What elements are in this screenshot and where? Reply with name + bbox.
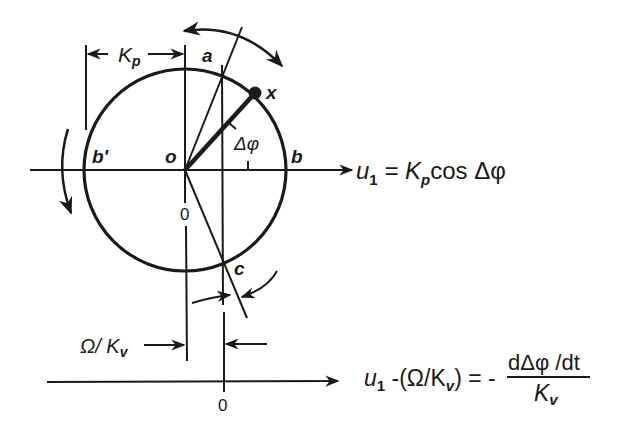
omega-kv-label: Ω/ Kv	[80, 335, 129, 360]
offset-line-upper	[222, 65, 223, 305]
label-zero-upper: 0	[180, 205, 189, 224]
rate-axis	[47, 381, 338, 382]
label-delta-phi: Δφ	[233, 133, 259, 154]
equation-u1: u1 = Kpcos Δφ	[356, 157, 506, 188]
label-x: x	[265, 82, 278, 103]
equation-numerator: dΔφ /dt	[508, 350, 580, 375]
label-b: b	[291, 146, 303, 167]
delta-phi-tick-1	[229, 123, 236, 129]
equation-denominator: Kv	[534, 380, 559, 408]
c-arrow-right	[242, 271, 277, 297]
label-zero-lower: 0	[218, 396, 227, 415]
label-c: c	[234, 258, 245, 279]
vertical-axis-lower	[186, 226, 187, 361]
label-a: a	[202, 45, 213, 66]
c-arrow-left	[192, 295, 230, 303]
line-oc	[185, 170, 247, 318]
label-o: o	[165, 146, 177, 167]
kp-label: Kp	[118, 43, 141, 69]
phase-circle-diagram: Kp Ω/ Kv a x o b b' c Δφ 0 0 u1 = Kpcos …	[0, 0, 618, 429]
phasor-ox	[185, 93, 255, 170]
equation-rate: u1 -(Ω/Kv) = -	[364, 365, 496, 394]
point-x	[249, 87, 262, 100]
label-b-prime: b'	[92, 146, 110, 167]
